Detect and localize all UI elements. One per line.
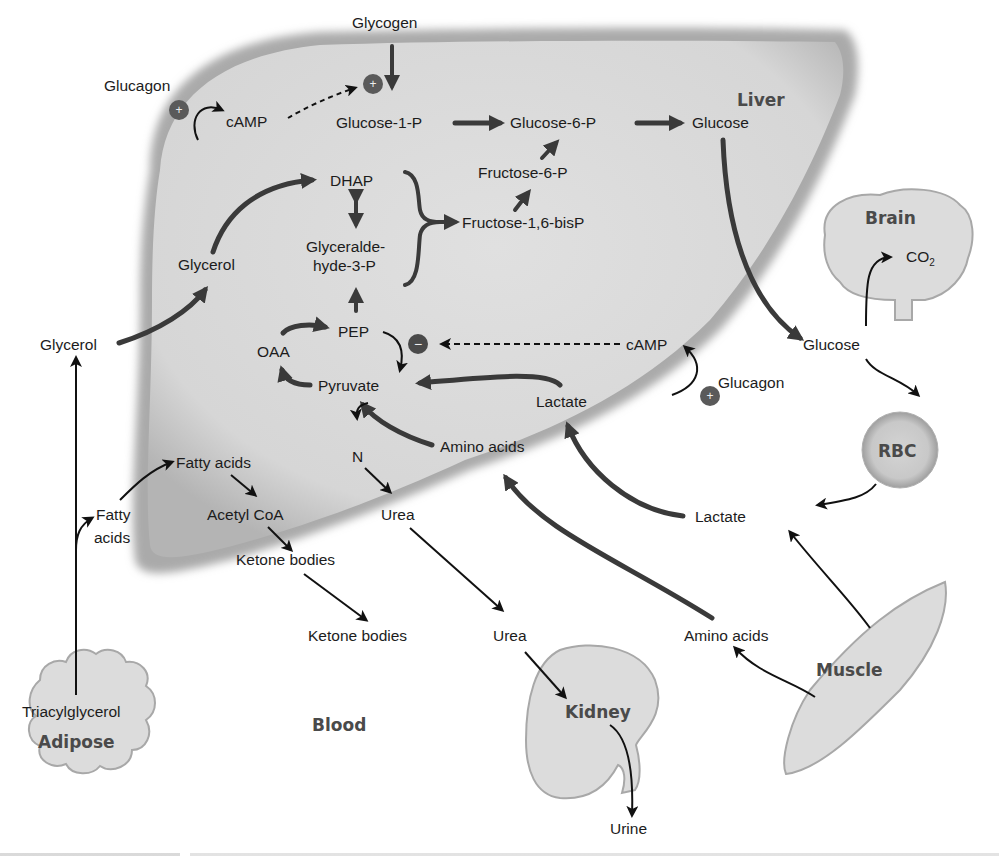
label-pyruvate: Pyruvate [318,377,379,394]
label-oaa: OAA [257,343,290,360]
label-glucose-blood: Glucose [803,336,860,353]
svg-text:+: + [369,77,376,91]
organ-label-liver: Liver [737,90,785,110]
label-lactate-liver: Lactate [536,393,587,410]
svg-text:+: + [706,389,713,403]
label-n: N [352,448,363,465]
plus-badge-glucagon-right: + [700,386,720,406]
label-urine: Urine [610,820,647,837]
figure-caption-cropped [0,849,999,860]
organ-label-kidney: Kidney [565,702,631,722]
label-ketone-bodies-blood: Ketone bodies [308,627,407,644]
plus-badge-glucagon-top: + [169,100,189,120]
svg-text:+: + [175,103,182,117]
label-ketone-bodies-liver: Ketone bodies [236,551,335,568]
label-lactate-blood: Lactate [695,508,746,525]
label-glucose-liver: Glucose [692,114,749,131]
label-glucose-6-p: Glucose-6-P [510,114,596,131]
minus-badge-pyruvate-kinase: − [408,334,428,354]
label-glyceraldehyde-line2: hyde-3-P [313,257,376,274]
label-pep: PEP [338,323,369,340]
organ-label-adipose: Adipose [38,732,115,752]
label-fatty-acids-liver: Fatty acids [176,454,251,471]
label-glycogen: Glycogen [352,14,417,31]
label-triacylglycerol: Triacylglycerol [22,703,120,720]
label-urea-liver: Urea [381,506,415,523]
label-fructose-16-bisp: Fructose-1,6-bisP [462,214,584,231]
label-glucagon-right: Glucagon [718,374,784,391]
label-urea-blood: Urea [493,627,527,644]
plus-badge-glycogen: + [363,74,383,94]
label-camp-mid: cAMP [626,336,667,353]
label-glycerol-liver: Glycerol [178,256,235,273]
label-glucose-1-p: Glucose-1-P [336,114,422,131]
label-acetyl-coa: Acetyl CoA [207,506,284,523]
organ-label-brain: Brain [865,208,916,228]
co2-text: CO [906,248,929,265]
organ-label-rbc: RBC [878,441,917,461]
organ-label-blood: Blood [312,715,366,735]
label-dhap: DHAP [330,172,373,189]
svg-text:−: − [414,336,422,352]
label-glucagon-top: Glucagon [104,77,170,94]
label-glyceraldehyde-line1: Glyceralde- [306,238,385,255]
label-fatty-acids-blood-line1: Fatty [96,506,131,523]
label-amino-acids-liver: Amino acids [440,438,525,455]
metabolic-diagram: + + − + Liver Glycogen cAMP Glucose-1-P … [0,0,999,860]
label-fructose-6-p: Fructose-6-P [478,164,568,181]
organ-label-muscle: Muscle [816,660,883,680]
label-glycerol-blood: Glycerol [40,336,97,353]
label-amino-acids-blood: Amino acids [684,627,769,644]
co2-subscript: 2 [929,257,935,268]
label-fatty-acids-blood-line2: acids [94,529,130,546]
label-camp-top: cAMP [226,113,267,130]
